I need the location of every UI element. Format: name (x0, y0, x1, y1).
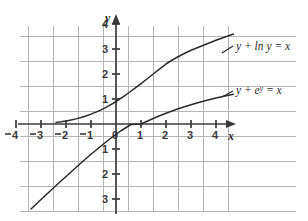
x-tick-value: 2 (62, 129, 68, 141)
curve-upper (56, 34, 234, 122)
x-tick-value: 1 (137, 129, 143, 141)
leader-line-upper (222, 46, 233, 53)
x-axis-label: x (227, 129, 234, 143)
x-tick-label: 4 (5, 129, 19, 141)
x-tick-label: 1 (80, 129, 93, 141)
x-tick-label: 4 (212, 129, 219, 141)
x-tick-value: 4 (12, 129, 19, 141)
graph-figure: 4321012344321123 xy y + ln y = xy + ey =… (0, 0, 308, 221)
curve-labels: y + ln y = xy + ey = x (222, 40, 291, 97)
x-axis-arrowhead (226, 120, 236, 128)
y-tick-value: 3 (102, 193, 108, 205)
x-tick-label: 1 (137, 129, 143, 141)
curve-label-upper: y + ln y = x (235, 40, 291, 53)
lower-label-suffix: = x (263, 84, 283, 96)
x-tick-value: 3 (187, 129, 193, 141)
lower-label-prefix: y + e (235, 84, 260, 97)
y-tick-value: 3 (102, 43, 108, 55)
x-tick-value: 2 (162, 129, 168, 141)
y-tick-value: 1 (102, 93, 108, 105)
x-tick-label: 3 (30, 129, 43, 141)
curve-label-lower: y + ey = x (235, 84, 283, 98)
x-tick-label: 2 (162, 129, 168, 141)
coordinate-plane: 4321012344321123 xy y + ln y = xy + ey =… (0, 0, 308, 221)
x-tick-value: 4 (212, 129, 219, 141)
x-tick-label: 2 (55, 129, 68, 141)
y-tick-value: 2 (102, 168, 108, 180)
y-axis-label: y (103, 11, 111, 25)
x-tick-value: 1 (87, 129, 93, 141)
y-axis-arrowhead (112, 14, 120, 24)
x-tick-label: 3 (187, 129, 193, 141)
x-tick-value: 3 (37, 129, 43, 141)
y-tick-value: 2 (102, 68, 108, 80)
gridlines (20, 26, 296, 212)
